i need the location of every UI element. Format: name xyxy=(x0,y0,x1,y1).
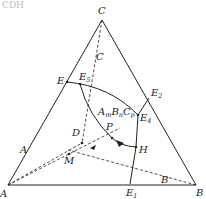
label-h: H xyxy=(138,144,148,155)
curve-h-p xyxy=(112,138,136,147)
dashed-line-b xyxy=(68,150,196,185)
point-h xyxy=(135,146,138,149)
header-text: CDH xyxy=(2,0,24,10)
label-vertex-c: C xyxy=(98,5,106,16)
ternary-diagram: CDH C A B C A B E E5 E2 E4 E1 H P D M Am… xyxy=(0,0,206,199)
label-edge-b: B xyxy=(160,174,168,185)
label-e4: E4 xyxy=(139,112,151,125)
label-m: M xyxy=(63,155,75,166)
point-d xyxy=(81,142,84,145)
label-d: D xyxy=(71,127,80,138)
label-e1: E1 xyxy=(125,187,137,199)
label-e2: E2 xyxy=(150,87,162,100)
label-p: P xyxy=(105,121,113,132)
label-vertex-a: A xyxy=(0,188,7,199)
label-edge-c: C xyxy=(96,51,104,62)
point-e xyxy=(66,81,69,84)
label-vertex-b: B xyxy=(195,187,203,198)
label-compound: AmBnCp xyxy=(97,106,136,119)
arrow-icon xyxy=(116,140,124,147)
label-edge-a: A xyxy=(19,144,27,155)
point-e4 xyxy=(137,114,140,117)
arrow-icon-2 xyxy=(90,145,96,150)
point-e5 xyxy=(79,83,82,86)
label-e: E xyxy=(56,75,65,86)
curve-e4-e1 xyxy=(130,115,138,184)
triangle-outline xyxy=(8,20,196,185)
point-p xyxy=(111,137,114,140)
label-e5: E5 xyxy=(78,71,90,84)
